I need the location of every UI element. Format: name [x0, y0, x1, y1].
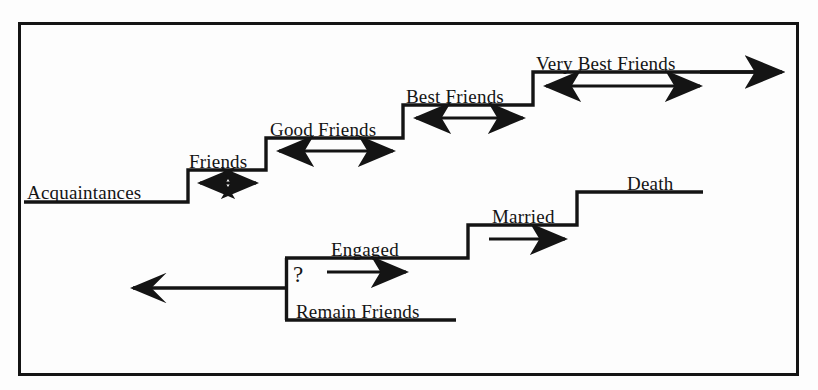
label-good-friends: Good Friends: [270, 120, 376, 139]
label-friends: Friends: [189, 152, 247, 171]
decision-question-mark: ?: [293, 263, 303, 286]
label-very-best-friends: Very Best Friends: [536, 54, 676, 73]
diagram-canvas: Acquaintances Friends Good Friends Best …: [0, 0, 818, 390]
label-best-friends: Best Friends: [406, 87, 504, 106]
label-married: Married: [492, 207, 555, 226]
label-remain-friends: Remain Friends: [296, 302, 420, 321]
label-engaged: Engaged: [331, 240, 399, 259]
label-death: Death: [627, 174, 673, 193]
label-acquaintances: Acquaintances: [27, 183, 141, 202]
